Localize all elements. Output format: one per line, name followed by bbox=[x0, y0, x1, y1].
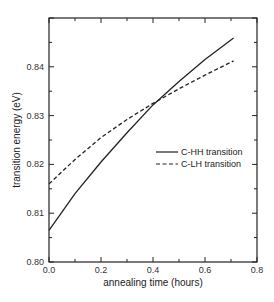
y-tick-label: 0.83 bbox=[26, 111, 44, 121]
legend: C-HH transition C-LH transition bbox=[156, 147, 243, 169]
x-tick-label: 0.0 bbox=[43, 265, 56, 275]
series-c-hh-transition bbox=[49, 38, 234, 230]
line-chart: 0.00.20.40.60.8 0.800.810.820.830.84 ann… bbox=[0, 0, 274, 302]
x-tick-label: 0.6 bbox=[199, 265, 212, 275]
y-tick-label: 0.84 bbox=[26, 62, 44, 72]
plot-frame bbox=[49, 18, 257, 262]
x-tick-label: 0.4 bbox=[147, 265, 160, 275]
legend-label-c-hh: C-HH transition bbox=[181, 147, 243, 157]
legend-label-c-lh: C-LH transition bbox=[181, 159, 241, 169]
y-axis-ticks: 0.800.810.820.830.84 bbox=[26, 18, 257, 267]
y-tick-label: 0.80 bbox=[26, 257, 44, 267]
y-tick-label: 0.81 bbox=[26, 208, 44, 218]
x-tick-label: 0.2 bbox=[95, 265, 108, 275]
y-axis-title: transition energy (eV) bbox=[11, 92, 22, 188]
data-series bbox=[49, 38, 234, 230]
x-axis-title: annealing time (hours) bbox=[103, 277, 203, 288]
x-tick-label: 0.8 bbox=[251, 265, 264, 275]
y-tick-label: 0.82 bbox=[26, 159, 44, 169]
